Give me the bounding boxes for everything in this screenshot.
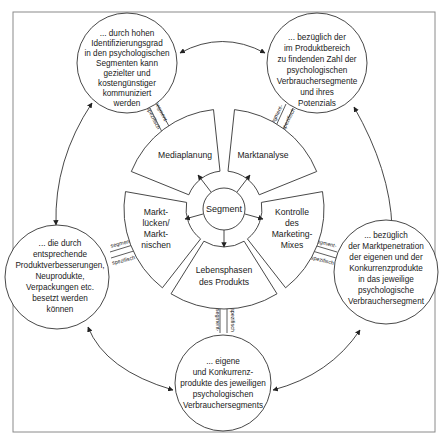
label-lebensphasen-2: des Produkts (199, 277, 249, 287)
connector-label-spezifisch: spezifisch (230, 308, 236, 332)
label-kontrolle-1: Kontrolle (275, 207, 309, 217)
label-mediaplanung: Mediaplanung (158, 150, 212, 160)
node-text: werden (113, 99, 141, 108)
node-text: der eigenen und der (349, 253, 423, 262)
node-text: Verbrauchersegmente (277, 77, 358, 86)
node-text: zu findenden Zahl der (277, 55, 356, 64)
node-text: in den psychologischen (84, 49, 170, 58)
node-text: Neuprodukte, (35, 272, 84, 281)
node-text: produkte des jeweiligen (180, 379, 266, 388)
connector-label-segment: segment- (215, 309, 221, 332)
node-text: psychologische (358, 286, 414, 295)
node-text: Potenzials (298, 99, 336, 108)
label-lebensphasen-1: Lebensphasen (196, 265, 253, 275)
link-topleft-topright (180, 42, 265, 54)
node-text: können (47, 305, 74, 314)
node-text: psychologischen (287, 66, 348, 75)
node-text: kommuniziert (103, 89, 152, 98)
node-text: ... die durch (39, 239, 82, 248)
node-text: psychologischen (193, 390, 254, 399)
node-text: ... eigene (206, 357, 240, 366)
connector-bottom: segment- spezifisch (215, 306, 236, 333)
node-text: Identifizierungsgrad (91, 39, 163, 48)
label-marktluecken-2: lücken/ (142, 218, 170, 228)
node-text: ... bezüglich (364, 231, 408, 240)
node-text: Konkurrenzprodukte (349, 264, 423, 273)
label-marktluecken-1: Markt- (144, 207, 168, 217)
node-text: besetzt werden (32, 294, 88, 303)
label-marktluecken-3: Markt- (144, 229, 168, 239)
label-marktluecken-4: nischen (141, 240, 171, 250)
outer-node-bottom[interactable]: ... eigene und Konkurrenz- produkte des … (175, 335, 271, 431)
node-text: und ihres (300, 88, 334, 97)
node-text: Verbrauchersegments (183, 401, 263, 410)
link-left-topleft (56, 103, 92, 225)
node-text: der Marktpenetration (348, 242, 424, 251)
outer-node-top-left[interactable]: ... durch hohen Identifizierungsgrad in … (77, 13, 177, 113)
node-text: kostengünstiger (98, 79, 156, 88)
node-text: Segmenten kann (96, 59, 158, 68)
link-bottom-left (88, 327, 173, 390)
node-text: Verbrauchersegment (348, 297, 425, 306)
node-text: und Konkurrenz- (193, 368, 254, 377)
node-text: Verpackungen etc. (26, 283, 94, 292)
connector-label-spezifisch: spezifisch (310, 254, 334, 266)
label-kontrolle-2: des (285, 218, 299, 228)
node-text: ... durch hohen (100, 29, 155, 38)
node-text: entsprechende (33, 250, 88, 259)
outer-node-right[interactable]: ... bezüglich der Marktpenetration der e… (334, 220, 438, 324)
outer-node-top-right[interactable]: ... bezüglich der im Produktbereich zu f… (267, 13, 367, 113)
connector-label-spezifisch: spezifisch (111, 254, 135, 266)
link-topright-right (354, 107, 392, 227)
label-marktanalyse: Marktanalyse (237, 150, 288, 160)
segment-diagram: segment- spezifisch segment- spezifisch … (0, 0, 444, 440)
outer-node-left[interactable]: ... die durch entsprechende Produktverbe… (5, 225, 109, 329)
node-text: in das jeweilige (358, 275, 414, 284)
node-text: gezielter und (104, 69, 151, 78)
label-kontrolle-4: Mixes (281, 240, 303, 250)
link-right-bottom (273, 330, 360, 390)
node-text: Produktverbesserungen, (15, 261, 104, 270)
center-label: Segment (206, 204, 243, 214)
label-kontrolle-3: Marketing- (272, 229, 313, 239)
node-text: im Produktbereich (284, 44, 350, 53)
node-text: ... bezüglich der (288, 33, 346, 42)
